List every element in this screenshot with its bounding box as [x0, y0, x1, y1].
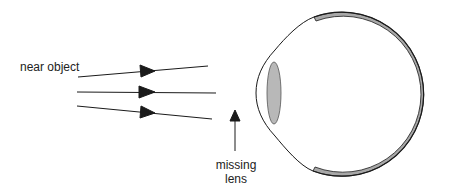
- ray-top-arrowhead-icon: [140, 65, 155, 77]
- missing-lens-label: missing lens: [212, 158, 260, 186]
- missing-lens-line2: lens: [212, 172, 260, 186]
- eye-outline: [256, 17, 314, 171]
- iris: [267, 62, 281, 124]
- ray-middle-arrowhead-icon: [139, 86, 155, 98]
- near-object-label: near object: [20, 60, 79, 74]
- missing-lens-line1: missing: [212, 158, 260, 172]
- light-rays: [77, 65, 216, 119]
- retina: [313, 12, 424, 176]
- eye-diagram: near object missing lens: [0, 0, 449, 192]
- ray-bottom-arrowhead-icon: [140, 106, 155, 118]
- pointer-arrowhead-icon: [230, 110, 240, 121]
- eye-back-outline: [313, 12, 424, 176]
- missing-lens-pointer: [230, 110, 240, 151]
- eyeball: [256, 12, 424, 176]
